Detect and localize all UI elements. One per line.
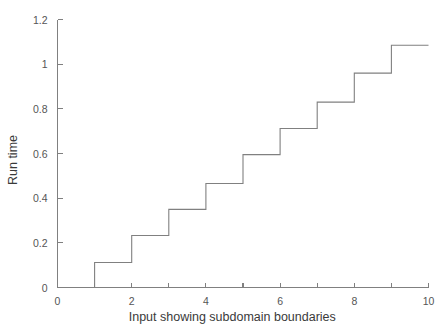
step-series-group: [58, 45, 429, 287]
y-tick-label: 1.2: [0, 14, 48, 26]
y-tick-label: 0.2: [0, 237, 48, 249]
x-tick-label: 0: [55, 295, 61, 307]
x-axis-title: Input showing subdomain boundaries: [129, 310, 336, 324]
y-tick-label: 0.8: [0, 103, 48, 115]
x-tick-label: 8: [351, 295, 357, 307]
y-axis-title: Run time: [6, 135, 20, 185]
step-line: [58, 45, 429, 287]
x-tick-label: 2: [129, 295, 135, 307]
x-tick-label: 10: [423, 295, 435, 307]
tick-marks-group: [58, 20, 429, 288]
y-tick-label: 1: [0, 58, 48, 70]
y-tick-label: 0: [0, 282, 48, 294]
axes-group: [58, 20, 430, 288]
y-tick-label: 0.4: [0, 192, 48, 204]
step-chart-figure: 00.20.40.60.811.2 0246810 Run time Input…: [0, 0, 448, 332]
x-tick-label: 6: [277, 295, 283, 307]
x-tick-label: 4: [203, 295, 209, 307]
plot-canvas: [0, 0, 448, 332]
